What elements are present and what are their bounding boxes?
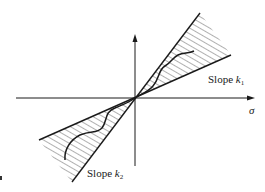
vertical-axis-arrow-icon (133, 34, 138, 42)
sector-diagram (0, 0, 265, 192)
slope-k2-prefix: Slope (87, 167, 115, 179)
corner-mark (0, 176, 2, 180)
slope-k1-label: Slope k1 (208, 74, 244, 87)
slope-k2-label: Slope k2 (87, 168, 123, 181)
sigma-axis-label: σ (249, 105, 254, 116)
slope-k1-prefix: Slope (208, 73, 236, 85)
slope-k1-sub: 1 (241, 79, 245, 87)
horizontal-axis-arrow-icon (247, 96, 255, 101)
slope-k2-sub: 2 (120, 173, 124, 181)
